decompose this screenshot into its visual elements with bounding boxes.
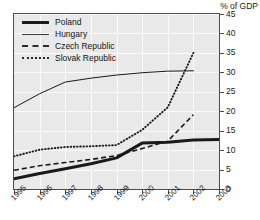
legend-label: Slovak Republic (55, 53, 116, 63)
x-axis-tick-label: 1995 (9, 183, 28, 202)
thin-solid-line-icon (22, 29, 49, 39)
legend-label: Hungary (55, 29, 87, 39)
thick-solid-line-icon (22, 17, 49, 27)
legend-label: Czech Republic (55, 41, 115, 51)
y-axis-tick (220, 111, 224, 112)
legend-item-poland: Poland (22, 16, 134, 28)
y-axis-tick (220, 14, 224, 15)
chart-legend: Poland Hungary Czech Republic Slovak Rep… (22, 16, 134, 64)
y-axis-tick (220, 53, 224, 54)
y-axis-tick (220, 72, 224, 73)
dashed-line-icon (22, 41, 49, 51)
y-axis-tick (220, 92, 224, 93)
legend-item-slovak-republic: Slovak Republic (22, 52, 134, 64)
series-line-hungary (14, 71, 193, 108)
y-axis-tick (220, 170, 224, 171)
legend-item-czech-republic: Czech Republic (22, 40, 134, 52)
legend-label: Poland (55, 17, 81, 27)
legend-item-hungary: Hungary (22, 28, 134, 40)
dotted-line-icon (22, 53, 49, 63)
y-axis-tick (220, 150, 224, 151)
chart-container: % of GDP 051015202530354045 199519961997… (0, 0, 260, 220)
y-axis-tick (220, 33, 224, 34)
y-axis-tick (220, 131, 224, 132)
